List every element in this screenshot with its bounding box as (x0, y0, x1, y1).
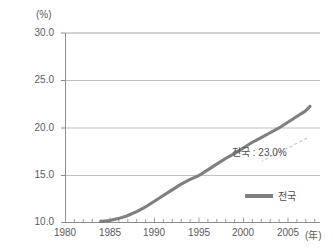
x-tick-label-2005: 2005 (268, 227, 308, 238)
x-axis-unit-label: (年) (305, 227, 322, 242)
x-tick-label-1990: 1990 (134, 227, 174, 238)
chart-legend: 전국 (245, 188, 296, 203)
chart-container: (%) 30.0 25.0 20.0 15.0 10.0 1980 1985 1… (0, 0, 333, 250)
y-axis-unit-label: (%) (36, 9, 52, 20)
y-tick-label-20: 20.0 (20, 122, 54, 133)
x-tick-label-1995: 1995 (179, 227, 219, 238)
legend-swatch-nationwide (245, 194, 273, 198)
legend-label-nationwide: 전국 (278, 188, 296, 203)
series-nationwide (101, 106, 310, 221)
x-tick-label-2000: 2000 (223, 227, 263, 238)
y-tick-label-25: 25.0 (20, 74, 54, 85)
y-tick-label-30: 30.0 (20, 27, 54, 38)
x-tick-label-1980: 1980 (45, 227, 85, 238)
series-group (101, 106, 310, 221)
y-tick-label-10: 10.0 (20, 216, 54, 227)
y-tick-label-15: 15.0 (20, 169, 54, 180)
y-axis-ticks (61, 33, 65, 223)
annotation-nationwide-value: 전국 : 23.0% (232, 144, 287, 159)
x-tick-label-1985: 1985 (90, 227, 130, 238)
